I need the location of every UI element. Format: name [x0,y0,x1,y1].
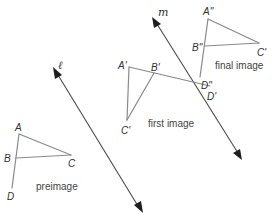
point-label-B2: B" [192,42,203,53]
point-label-A1: A' [117,60,128,71]
point-label-D: D [7,191,14,202]
final-image-caption: final image [215,60,264,71]
point-label-C2: C' [257,47,267,58]
segment-A1D1 [129,67,210,86]
preimage-caption: preimage [36,181,78,192]
segment-B1C1 [127,73,154,120]
point-label-A2: A" [202,6,214,17]
point-label-D2: D" [201,80,212,91]
first-image-figure: A' B' C' D' first image [117,60,217,136]
segment-BC [16,155,71,158]
point-label-C1: C' [121,125,131,136]
reflection-diagram: ℓ m A B C D preimage A' B' C' D' first i… [0,0,273,215]
point-label-C: C [68,158,76,169]
point-label-B: B [4,153,11,164]
segment-A2C2 [208,19,259,43]
point-label-D1: D' [207,91,217,102]
line-l-label: ℓ [58,59,63,72]
first-image-caption: first image [148,118,195,129]
segment-B2C2 [205,43,259,46]
point-label-A: A [14,122,22,133]
arrowhead-icon [233,149,242,160]
point-label-B1: B' [151,62,161,73]
line-m-label: m [158,6,168,19]
arrowhead-icon [134,201,143,213]
segment-A1C1 [127,67,129,120]
final-image-figure: A" B" C' D" final image [192,6,267,91]
preimage-figure: A B C D preimage [4,122,78,202]
segment-AC [19,134,71,155]
segment-AD [12,134,19,188]
